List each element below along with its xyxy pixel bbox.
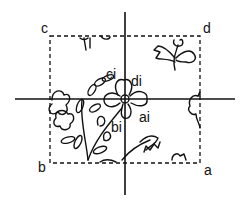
lower-right-branch-drawing: [100, 136, 186, 162]
center-label-bi: bi: [111, 119, 122, 135]
center-label-ci: ci: [106, 66, 116, 82]
top-edge-fragments-drawing: [80, 36, 110, 50]
corner-label-d: d: [203, 20, 211, 36]
center-label-di: di: [131, 73, 142, 89]
corner-label-b: b: [38, 159, 46, 175]
corner-label-a: a: [204, 162, 212, 178]
center-label-ai: ai: [139, 109, 150, 125]
tiling-diagram: c d b a ci di ai bi: [0, 0, 247, 205]
corner-label-c: c: [41, 20, 48, 36]
left-flower-drawing: [49, 91, 74, 130]
top-right-sprig-drawing: [154, 39, 195, 70]
branch-leaves-drawing: [60, 74, 122, 160]
right-edge-flower-drawing: [189, 92, 200, 128]
